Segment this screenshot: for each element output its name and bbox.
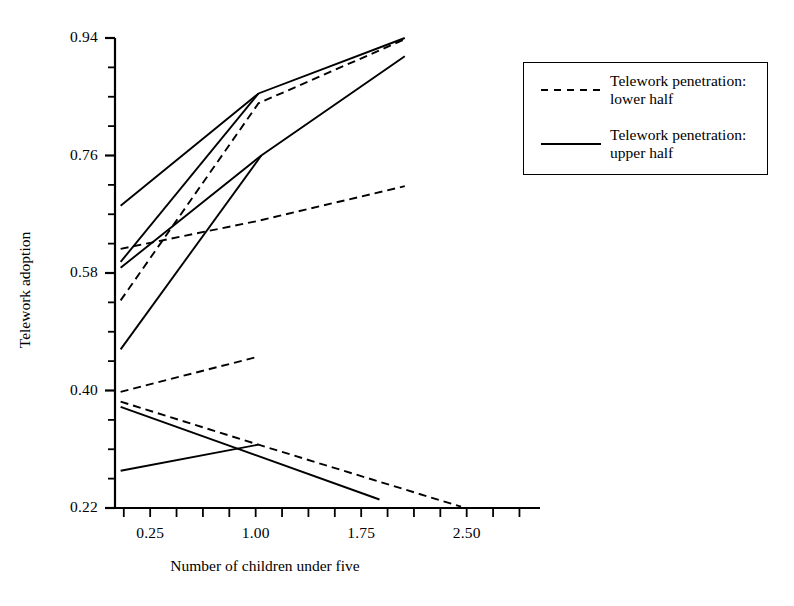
xtick-label-3: 2.50 xyxy=(422,524,512,542)
x-axis-title: Number of children under five xyxy=(0,557,530,575)
legend-swatch-dashed-icon xyxy=(538,86,604,94)
series-line-upper-half-rising-low xyxy=(121,445,259,471)
series-line-lower-half-shallow-upper xyxy=(121,186,405,249)
legend-item-lower-half: Telework penetration: lower half xyxy=(524,65,767,115)
data-series xyxy=(121,38,461,507)
legend-label-upper-half-line2: upper half xyxy=(610,144,746,162)
ytick-label-3: 0.76 xyxy=(10,146,98,164)
ytick-label-4: 0.94 xyxy=(10,28,98,46)
chart-figure: 0.22 0.40 0.58 0.76 0.94 0.25 1.00 1.75 … xyxy=(0,0,794,606)
y-axis-title: Telework adoption xyxy=(16,232,34,348)
legend-label-upper-half-line1: Telework penetration: xyxy=(610,126,746,144)
series-line-lower-half-mid-rising xyxy=(121,357,259,392)
xtick-label-1: 1.00 xyxy=(211,524,301,542)
xtick-label-0: 0.25 xyxy=(105,524,195,542)
y-axis-title-wrap: Telework adoption xyxy=(14,180,36,400)
legend-item-upper-half: Telework penetration: upper half xyxy=(524,119,767,169)
ytick-label-0: 0.22 xyxy=(10,498,98,516)
axes xyxy=(105,38,540,517)
legend-label-lower-half: Telework penetration: lower half xyxy=(610,72,746,109)
series-line-upper-half-top xyxy=(121,38,405,206)
legend-label-upper-half: Telework penetration: upper half xyxy=(610,126,746,163)
series-line-lower-half-declining xyxy=(121,402,461,507)
series-line-upper-half-third xyxy=(121,56,405,268)
legend: Telework penetration: lower half Telewor… xyxy=(523,62,768,175)
series-line-upper-half-fourth xyxy=(121,156,262,350)
legend-label-lower-half-line1: Telework penetration: xyxy=(610,72,746,90)
legend-swatch-solid-icon xyxy=(538,140,604,148)
series-line-upper-half-second xyxy=(121,93,259,261)
legend-label-lower-half-line2: lower half xyxy=(610,90,746,108)
xtick-label-2: 1.75 xyxy=(316,524,406,542)
series-line-upper-half-declining xyxy=(121,407,380,500)
